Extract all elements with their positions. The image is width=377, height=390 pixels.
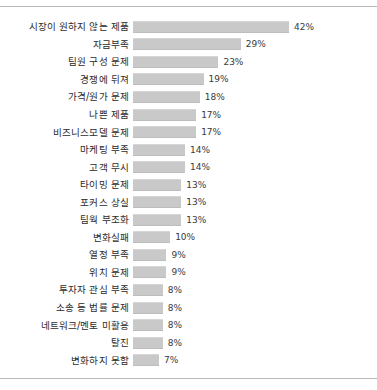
bar-value-label: 13% <box>186 180 206 190</box>
bar-category-label: 변화실패 <box>0 232 133 243</box>
bar-value-label: 14% <box>190 145 210 155</box>
bar-row: 고객 무시14% <box>0 158 377 176</box>
bar <box>133 231 170 243</box>
bar <box>133 56 218 68</box>
bar-category-label: 팀원 구성 문제 <box>0 56 133 67</box>
bar-track: 14% <box>133 141 377 159</box>
bar-value-label: 29% <box>246 39 266 49</box>
bar-row: 팀웍 부조화13% <box>0 211 377 229</box>
bar <box>133 179 181 191</box>
bar-track: 8% <box>133 316 377 334</box>
bar-value-label: 8% <box>168 303 182 313</box>
bar <box>133 266 166 278</box>
bar-value-label: 19% <box>209 74 229 84</box>
bar-category-label: 소송 등 법률 문제 <box>0 302 133 313</box>
bar-category-label: 경쟁에 뒤져 <box>0 74 133 85</box>
bar-row: 경쟁에 뒤져19% <box>0 71 377 89</box>
bar-row: 포커스 상실13% <box>0 193 377 211</box>
bar-row: 마케팅 부족14% <box>0 141 377 159</box>
bar-category-label: 시장이 원하지 않는 제품 <box>0 21 133 32</box>
bar-category-label: 탈진 <box>0 337 133 348</box>
bar-value-label: 14% <box>190 162 210 172</box>
bar <box>133 161 185 173</box>
bar-row: 팀원 구성 문제23% <box>0 53 377 71</box>
bar-row: 비즈니스모델 문제17% <box>0 123 377 141</box>
bar-value-label: 13% <box>186 197 206 207</box>
bar-track: 29% <box>133 36 377 54</box>
bar-value-label: 7% <box>164 355 178 365</box>
bar-track: 8% <box>133 299 377 317</box>
top-divider <box>0 6 377 7</box>
bar-value-label: 17% <box>201 127 221 137</box>
bar-value-label: 9% <box>171 250 185 260</box>
bar-value-label: 8% <box>168 285 182 295</box>
bar-track: 13% <box>133 176 377 194</box>
bar-value-label: 9% <box>171 267 185 277</box>
bar <box>133 196 181 208</box>
bar-category-label: 타이밍 문제 <box>0 179 133 190</box>
bar <box>133 73 204 85</box>
bar-track: 8% <box>133 334 377 352</box>
bar-value-label: 8% <box>168 338 182 348</box>
bar <box>133 126 196 138</box>
bar-track: 19% <box>133 71 377 89</box>
bar-value-label: 42% <box>294 22 314 32</box>
bar-track: 17% <box>133 106 377 124</box>
bar-row: 투자자 관심 부족8% <box>0 281 377 299</box>
bar-track: 10% <box>133 229 377 247</box>
bar <box>133 354 159 366</box>
bar-value-label: 8% <box>168 320 182 330</box>
bar-row: 열정 부족9% <box>0 246 377 264</box>
bar-value-label: 10% <box>175 232 195 242</box>
bar-track: 7% <box>133 351 377 369</box>
bar-category-label: 가격/원가 문제 <box>0 91 133 102</box>
bar <box>133 249 166 261</box>
bar-row: 탈진8% <box>0 334 377 352</box>
bar-category-label: 열정 부족 <box>0 249 133 260</box>
bar-row: 위치 문제9% <box>0 264 377 282</box>
bar-row: 타이밍 문제13% <box>0 176 377 194</box>
bar-row: 자금부족29% <box>0 36 377 54</box>
bar-category-label: 위치 문제 <box>0 267 133 278</box>
bar-value-label: 23% <box>223 57 243 67</box>
bar-row: 가격/원가 문제18% <box>0 88 377 106</box>
bar-value-label: 18% <box>205 92 225 102</box>
bar-value-label: 17% <box>201 110 221 120</box>
bar-track: 13% <box>133 211 377 229</box>
bar-row: 네트워크/멘토 미활용8% <box>0 316 377 334</box>
bar-category-label: 자금부족 <box>0 39 133 50</box>
bar <box>133 91 200 103</box>
bar-track: 23% <box>133 53 377 71</box>
bar-track: 9% <box>133 246 377 264</box>
bar <box>133 302 163 314</box>
bar-chart: 시장이 원하지 않는 제품42%자금부족29%팀원 구성 문제23%경쟁에 뒤져… <box>0 0 377 390</box>
bar-track: 13% <box>133 193 377 211</box>
bar <box>133 144 185 156</box>
bar-row: 변화하지 못함7% <box>0 351 377 369</box>
bar-track: 9% <box>133 264 377 282</box>
bar-value-label: 13% <box>186 215 206 225</box>
bar-category-label: 나쁜 제품 <box>0 109 133 120</box>
bar-category-label: 마케팅 부족 <box>0 144 133 155</box>
bar <box>133 337 163 349</box>
bar <box>133 109 196 121</box>
bar-row: 변화실패10% <box>0 229 377 247</box>
bar-category-label: 고객 무시 <box>0 162 133 173</box>
bar-category-label: 네트워크/멘토 미활용 <box>0 320 133 331</box>
bar-category-label: 투자자 관심 부족 <box>0 284 133 295</box>
bar <box>133 214 181 226</box>
bar-category-label: 포커스 상실 <box>0 197 133 208</box>
bar-category-label: 팀웍 부조화 <box>0 214 133 225</box>
bar <box>133 21 289 33</box>
bar-track: 17% <box>133 123 377 141</box>
bar <box>133 38 241 50</box>
bottom-divider <box>0 378 377 379</box>
bar <box>133 319 163 331</box>
bar-row: 시장이 원하지 않는 제품42% <box>0 18 377 36</box>
bar-category-label: 비즈니스모델 문제 <box>0 127 133 138</box>
bar <box>133 284 163 296</box>
plot-area: 시장이 원하지 않는 제품42%자금부족29%팀원 구성 문제23%경쟁에 뒤져… <box>0 18 377 369</box>
bar-row: 나쁜 제품17% <box>0 106 377 124</box>
bar-row: 소송 등 법률 문제8% <box>0 299 377 317</box>
bar-track: 8% <box>133 281 377 299</box>
